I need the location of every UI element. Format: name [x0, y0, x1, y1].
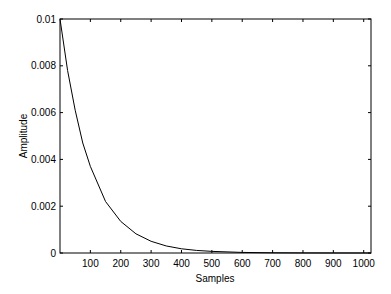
x-tick-label: 700 — [264, 258, 281, 269]
x-tick-label: 200 — [112, 258, 129, 269]
y-tick-label: 0 — [50, 248, 56, 259]
x-tick-label: 800 — [295, 258, 312, 269]
y-tick-label: 0.002 — [31, 201, 56, 212]
x-tick-label: 900 — [325, 258, 342, 269]
line-chart: 1002003004005006007008009001000 00.0020.… — [0, 0, 391, 294]
y-axis-label: Amplitude — [18, 113, 29, 158]
plot-area — [60, 19, 371, 253]
y-tick-label: 0.008 — [31, 60, 56, 71]
y-tick-label: 0.006 — [31, 107, 56, 118]
x-tick-label: 600 — [234, 258, 251, 269]
x-tick-label: 1000 — [353, 258, 376, 269]
y-tick-label: 0.01 — [37, 14, 57, 25]
x-tick-label: 100 — [82, 258, 99, 269]
y-tick-label: 0.004 — [31, 154, 56, 165]
x-tick-label: 400 — [173, 258, 190, 269]
x-tick-label: 300 — [143, 258, 160, 269]
x-tick-label: 500 — [204, 258, 221, 269]
x-axis-label: Samples — [196, 273, 235, 284]
